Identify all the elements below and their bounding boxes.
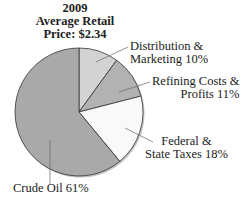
label-refining: Refining Costs & Profits 11% — [152, 75, 240, 101]
label-taxes: Federal & State Taxes 18% — [145, 135, 228, 161]
pie-chart — [0, 0, 247, 203]
label-distribution: Distribution & Marketing 10% — [130, 40, 208, 66]
label-crude-oil: Crude Oil 61% — [13, 182, 89, 195]
